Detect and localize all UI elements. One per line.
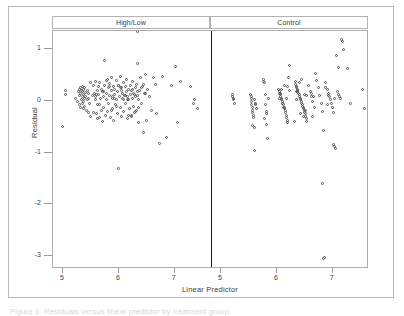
data-point	[98, 116, 101, 119]
data-point	[286, 85, 289, 88]
data-point	[346, 67, 349, 70]
data-point	[318, 94, 321, 97]
x-tick-label: 7	[324, 274, 340, 281]
data-point	[87, 97, 90, 100]
data-point	[112, 119, 115, 122]
data-point	[87, 92, 90, 95]
data-point	[139, 76, 142, 79]
data-point	[87, 111, 90, 114]
data-point	[64, 89, 67, 92]
data-point	[311, 100, 314, 103]
data-point	[158, 142, 161, 145]
data-point	[136, 90, 139, 93]
data-point	[130, 115, 133, 118]
data-point	[333, 97, 336, 100]
data-point	[119, 106, 122, 109]
scatter-panel-high-low	[53, 31, 211, 267]
data-point	[302, 115, 305, 118]
data-point	[176, 121, 179, 124]
data-point	[117, 167, 120, 170]
data-point	[253, 149, 256, 152]
data-point	[320, 102, 323, 105]
data-point	[94, 80, 97, 83]
data-point	[142, 131, 145, 134]
data-point	[300, 78, 303, 81]
data-point	[341, 40, 344, 43]
data-point	[137, 121, 140, 124]
data-point	[105, 79, 108, 82]
data-point	[317, 86, 320, 89]
data-point	[337, 66, 340, 69]
data-point	[106, 110, 109, 113]
data-point	[311, 115, 314, 118]
data-point	[265, 123, 268, 126]
y-tick-mark	[44, 152, 52, 153]
scatter-panel-control	[211, 31, 368, 267]
data-point	[315, 79, 318, 82]
data-point	[361, 88, 364, 91]
data-point	[140, 86, 143, 89]
data-point	[145, 119, 148, 122]
data-point	[108, 85, 111, 88]
x-tick-label: 5	[212, 274, 228, 281]
x-axis-label: Linear Predictor	[52, 285, 368, 294]
data-point	[321, 182, 324, 185]
panel-strip-control: Control	[210, 16, 368, 29]
data-point	[179, 80, 182, 83]
data-point	[131, 88, 134, 91]
data-point	[107, 102, 110, 105]
y-tick-mark	[44, 203, 52, 204]
data-point	[253, 98, 256, 101]
data-point	[88, 102, 91, 105]
data-point	[301, 105, 304, 108]
data-point	[150, 109, 153, 112]
data-point	[136, 31, 139, 33]
data-point	[124, 85, 127, 88]
data-point	[102, 90, 105, 93]
data-point	[120, 115, 123, 118]
data-point	[285, 97, 288, 100]
x-tick-label: 6	[110, 274, 126, 281]
data-point	[233, 102, 236, 105]
data-point	[310, 92, 313, 95]
panel-strip-high-low: High/Low	[52, 16, 210, 29]
data-point	[113, 97, 116, 100]
data-point	[295, 98, 298, 101]
x-tick-mark	[118, 268, 119, 273]
data-point	[116, 112, 119, 115]
data-point	[264, 93, 267, 96]
data-point	[105, 92, 108, 95]
data-point	[326, 103, 329, 106]
data-point	[313, 106, 316, 109]
x-tick-mark	[62, 268, 63, 273]
figure-caption-sliver: Figure 1. Residuals versus linear predic…	[10, 307, 394, 316]
data-point	[102, 106, 105, 109]
data-point	[232, 98, 235, 101]
data-point	[64, 93, 67, 96]
data-point	[363, 107, 366, 110]
data-point	[170, 84, 173, 87]
data-point	[263, 117, 266, 120]
x-tick-label: 6	[268, 274, 284, 281]
data-point	[110, 76, 113, 79]
data-point	[321, 110, 324, 113]
data-point	[282, 106, 285, 109]
y-tick-label: 0	[24, 96, 41, 103]
data-point	[124, 102, 127, 105]
data-point	[152, 76, 155, 79]
data-point	[83, 86, 86, 89]
data-point	[265, 110, 268, 113]
data-point	[89, 115, 92, 118]
data-point	[335, 54, 338, 57]
data-point	[331, 106, 334, 109]
data-point	[193, 98, 196, 101]
x-tick-mark	[276, 268, 277, 273]
data-point	[110, 89, 113, 92]
data-point	[96, 89, 99, 92]
data-point	[196, 107, 199, 110]
data-point	[189, 85, 192, 88]
data-point	[342, 48, 345, 51]
data-point	[122, 98, 125, 101]
data-point	[131, 80, 134, 83]
data-point	[264, 103, 267, 106]
